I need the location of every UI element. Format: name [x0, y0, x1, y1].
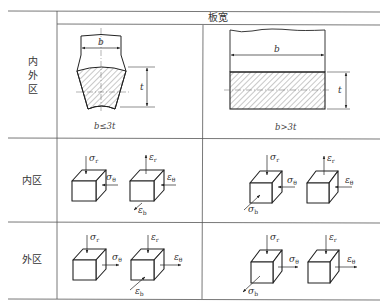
row-label-inner-outer-zone: 内 外 区: [28, 55, 38, 95]
inner-wide-stress-cube: σr σθ σb: [244, 152, 297, 215]
svg-text:σθ: σθ: [289, 254, 299, 265]
row-divider-1: [8, 138, 380, 139]
svg-text:σr: σr: [270, 152, 279, 163]
outer-narrow-strain-cube: εr εθ εb: [130, 232, 183, 297]
svg-text:σθ: σθ: [112, 252, 122, 263]
wide-section-diagram: b t b>3t: [224, 29, 350, 132]
svg-text:σθ: σθ: [106, 172, 116, 183]
svg-text:σb: σb: [248, 286, 258, 297]
svg-text:σr: σr: [89, 153, 98, 164]
wide-condition-label: b>3t: [275, 122, 297, 132]
row-divider-2: [8, 222, 380, 223]
svg-text:εθ: εθ: [167, 172, 176, 183]
inner-narrow-stress-cube: σr σθ: [72, 153, 118, 201]
narrow-section-diagram: b t b≤3t: [76, 28, 155, 131]
inner-wide-strain-cube: εr εθ: [307, 153, 354, 203]
svg-text:σθ: σθ: [287, 175, 297, 186]
svg-text:t: t: [338, 85, 342, 95]
svg-text:内: 内: [28, 55, 38, 67]
row-label-inner-zone: 内区: [22, 174, 42, 186]
svg-text:σb: σb: [248, 204, 258, 215]
svg-text:εθ: εθ: [347, 254, 356, 265]
svg-text:εr: εr: [151, 232, 159, 243]
narrow-condition-label: b≤3t: [94, 121, 116, 131]
svg-text:εr: εr: [327, 153, 335, 164]
outer-narrow-stress-cube: σr σθ: [73, 232, 122, 280]
svg-text:σr: σr: [90, 232, 99, 243]
header-board-width: 板宽: [208, 11, 228, 23]
outer-wide-stress-cube: σr σθ σb: [243, 232, 299, 297]
width-column-divider: [202, 25, 203, 299]
table-top-border: [8, 11, 380, 12]
svg-text:b: b: [274, 44, 280, 54]
svg-text:外: 外: [28, 70, 38, 81]
row-label-outer-zone: 外区: [22, 254, 42, 265]
svg-text:σr: σr: [270, 232, 279, 243]
inner-narrow-strain-cube: εr εθ εb: [130, 152, 176, 216]
stress-strain-state-table: 板宽 内 外 区 内区 外区 b t b≤3t b t b>3t: [0, 0, 380, 307]
svg-text:区: 区: [28, 84, 38, 95]
svg-text:t: t: [140, 82, 144, 92]
svg-text:εb: εb: [135, 286, 144, 297]
svg-text:εr: εr: [149, 152, 157, 163]
svg-text:εθ: εθ: [174, 252, 183, 263]
outer-wide-strain-cube: εr εθ: [308, 232, 357, 283]
svg-text:b: b: [98, 37, 104, 47]
header-bottom-border: [57, 24, 380, 25]
svg-text:εθ: εθ: [345, 175, 354, 186]
svg-text:εr: εr: [329, 232, 337, 243]
svg-text:εb: εb: [138, 205, 147, 216]
table-bottom-border: [8, 299, 380, 300]
